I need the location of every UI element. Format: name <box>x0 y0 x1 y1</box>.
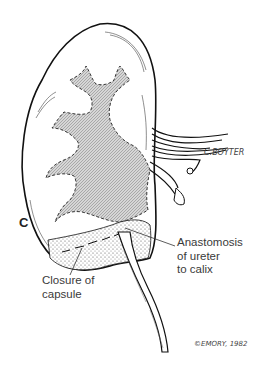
panel-label: C <box>19 215 28 230</box>
anastomosis-label: Anastomosis of ureter to calix <box>177 236 243 277</box>
kidney-illustration: C Anastomosis of ureter to calix Closure… <box>0 0 269 372</box>
kidney-drawing <box>0 0 269 372</box>
ligated-vessel-end <box>187 168 193 174</box>
artist-signature: C.BOYTER <box>204 148 244 157</box>
copyright-notice: ©EMORY, 1982 <box>194 340 247 348</box>
ligated-ureter-stump <box>174 188 184 205</box>
closure-label: Closure of capsule <box>42 274 94 301</box>
